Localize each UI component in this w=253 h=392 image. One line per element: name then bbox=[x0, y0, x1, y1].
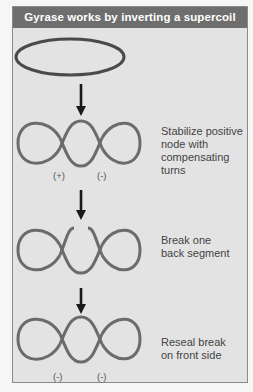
caption-line: compensating bbox=[161, 151, 243, 164]
caption-line: turns bbox=[161, 164, 243, 177]
caption-line: on front side bbox=[161, 349, 226, 362]
step-2-caption: Break one back segment bbox=[161, 234, 229, 260]
supercoil-with-nodes bbox=[18, 121, 140, 166]
node-sign-positive: (+) bbox=[53, 170, 65, 181]
node-sign-negative: (-) bbox=[97, 371, 107, 382]
node-sign-negative: (-) bbox=[97, 170, 107, 181]
caption-line: Stabilize positive bbox=[161, 125, 243, 138]
down-arrow-icon bbox=[76, 190, 86, 220]
caption-line: node with bbox=[161, 138, 243, 151]
step-3-caption: Reseal break on front side bbox=[161, 336, 226, 362]
supercoil-inverted bbox=[18, 317, 140, 362]
down-arrow-icon bbox=[76, 84, 86, 116]
caption-line: back segment bbox=[161, 247, 229, 260]
caption-line: Reseal break bbox=[161, 336, 226, 349]
supercoil-broken-segment bbox=[18, 228, 140, 273]
relaxed-dna-loop bbox=[16, 39, 124, 75]
step-1-caption: Stabilize positive node with compensatin… bbox=[161, 125, 243, 177]
caption-line: Break one bbox=[161, 234, 229, 247]
down-arrow-icon bbox=[76, 288, 86, 314]
node-sign-negative: (-) bbox=[53, 371, 63, 382]
diagram-artwork bbox=[0, 0, 253, 392]
